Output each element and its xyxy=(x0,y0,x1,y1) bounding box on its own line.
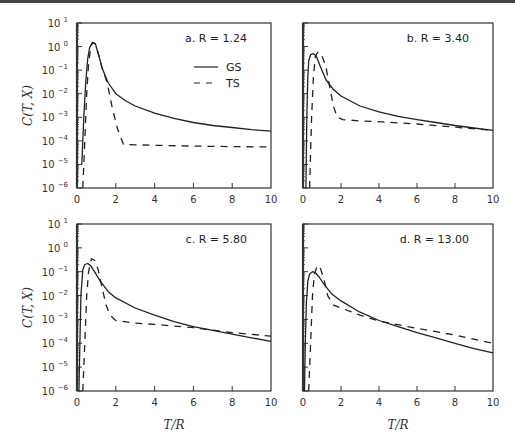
panel-a: 024681010 110 010 −110 −210 −310 −410 −5… xyxy=(21,16,277,205)
x-tick-label: 0 xyxy=(74,194,80,205)
panel-c: 024681010 110 010 −110 −210 −310 −410 −5… xyxy=(21,217,277,432)
legend-label-ts: TS xyxy=(225,77,240,90)
y-tick-label: 10 −4 xyxy=(42,134,69,147)
y-tick-label: 10 −6 xyxy=(42,181,69,194)
panel-label: b. R = 3.40 xyxy=(407,32,469,45)
y-tick-label: 10 −4 xyxy=(42,336,69,349)
plot-frame xyxy=(77,23,271,188)
x-tick-label: 0 xyxy=(74,397,80,408)
x-tick-label: 6 xyxy=(190,194,196,205)
x-axis-title: T/R xyxy=(387,418,408,432)
x-tick-label: 4 xyxy=(376,397,382,408)
x-axis-title: T/R xyxy=(163,418,184,432)
x-tick-label: 10 xyxy=(265,194,278,205)
y-tick-label: 10 1 xyxy=(48,217,68,230)
legend-label-gs: GS xyxy=(226,61,242,74)
x-tick-label: 2 xyxy=(338,397,344,408)
y-axis-title: C(T, X) xyxy=(21,287,35,328)
y-tick-label: 10 −5 xyxy=(42,360,68,373)
series-ts xyxy=(83,42,271,188)
series-gs xyxy=(306,54,493,188)
x-tick-label: 6 xyxy=(414,397,420,408)
x-tick-label: 10 xyxy=(265,397,278,408)
y-tick-label: 10 −1 xyxy=(42,63,68,76)
panel-label: d. R = 13.00 xyxy=(400,233,469,246)
y-tick-label: 10 −3 xyxy=(42,110,68,123)
y-tick-label: 10 0 xyxy=(48,40,68,53)
x-tick-label: 8 xyxy=(452,397,458,408)
y-tick-label: 10 −5 xyxy=(42,157,68,170)
series-ts xyxy=(83,259,271,391)
series-gs xyxy=(79,264,271,392)
y-tick-label: 10 −2 xyxy=(42,289,68,302)
x-tick-label: 4 xyxy=(151,397,157,408)
plot-frame xyxy=(303,224,493,391)
y-tick-label: 10 −1 xyxy=(42,265,68,278)
x-tick-label: 2 xyxy=(113,397,119,408)
x-tick-label: 8 xyxy=(229,194,235,205)
y-tick-label: 10 −6 xyxy=(42,384,69,397)
y-axis-title: C(T, X) xyxy=(21,85,35,126)
x-tick-label: 0 xyxy=(300,194,306,205)
x-tick-label: 6 xyxy=(190,397,196,408)
panel-d: 0246810T/Rd. R = 13.00 xyxy=(300,224,500,432)
x-tick-label: 0 xyxy=(300,397,306,408)
x-tick-label: 2 xyxy=(338,194,344,205)
x-tick-label: 4 xyxy=(151,194,157,205)
figure: 024681010 110 010 −110 −210 −310 −410 −5… xyxy=(0,0,515,445)
panel-label: c. R = 5.80 xyxy=(186,233,247,246)
x-tick-label: 6 xyxy=(414,194,420,205)
x-tick-label: 8 xyxy=(229,397,235,408)
panel-label: a. R = 1.24 xyxy=(185,32,247,45)
series-gs xyxy=(305,272,494,391)
series-gs xyxy=(82,42,271,164)
x-tick-label: 4 xyxy=(376,194,382,205)
y-tick-label: 10 1 xyxy=(48,16,68,29)
x-tick-label: 10 xyxy=(487,194,500,205)
x-tick-label: 8 xyxy=(452,194,458,205)
plot-frame xyxy=(77,224,271,391)
y-tick-label: 10 0 xyxy=(48,241,68,254)
x-tick-label: 10 xyxy=(487,397,500,408)
series-ts xyxy=(310,52,493,188)
y-tick-label: 10 −3 xyxy=(42,312,68,325)
panel-b: 0246810b. R = 3.40 xyxy=(300,23,500,205)
x-tick-label: 2 xyxy=(113,194,119,205)
series-ts xyxy=(309,266,493,391)
y-tick-label: 10 −2 xyxy=(42,87,68,100)
plot-frame xyxy=(303,23,493,188)
